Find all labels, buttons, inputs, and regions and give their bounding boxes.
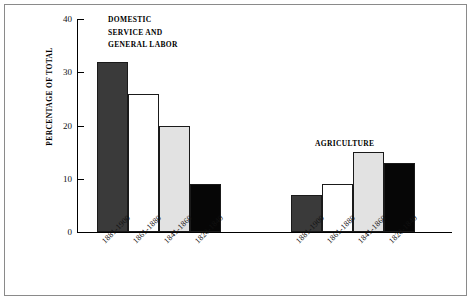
- y-tick-label-0: 0: [50, 227, 72, 237]
- chart-figure: PERCENTAGE OF TOTAL 40 30 20 10 0 DOMEST…: [0, 0, 472, 301]
- plot-area: [78, 19, 452, 232]
- y-axis-title: PERCENTAGE OF TOTAL: [45, 17, 54, 177]
- bar-domestic-1881-1900[interactable]: [97, 62, 128, 232]
- bar-domestic-1861-1880[interactable]: [128, 94, 159, 233]
- y-tick-label-40: 40: [50, 14, 72, 24]
- y-tick-label-30: 30: [50, 67, 72, 77]
- y-tick-label-20: 20: [50, 121, 72, 131]
- y-tick-label-10: 10: [50, 174, 72, 184]
